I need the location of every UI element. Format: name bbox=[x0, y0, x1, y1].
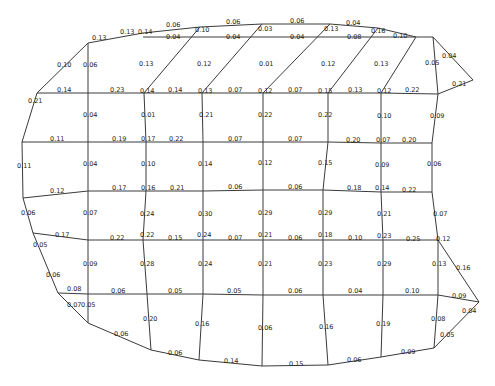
edge-value-label: 0.10 bbox=[141, 160, 155, 168]
edge-value-label: 0.11 bbox=[17, 162, 31, 170]
edge-value-label: 0.16 bbox=[319, 323, 333, 331]
edge-value-label: 0.19 bbox=[376, 320, 390, 328]
mesh-edge bbox=[58, 293, 88, 294]
edge-value-label: 0.07 bbox=[228, 135, 242, 143]
edge-value-label: 0.04 bbox=[166, 33, 180, 41]
edge-value-label: 0.10 bbox=[393, 32, 407, 40]
edge-value-label: 0.22 bbox=[405, 86, 419, 94]
edge-value-label: 0.05 bbox=[81, 301, 95, 309]
edge-value-label: 0.11 bbox=[50, 135, 64, 143]
edge-value-label: 0.07 bbox=[67, 301, 81, 309]
edge-value-label: 0.07 bbox=[376, 136, 390, 144]
edge-value-label: 0.07 bbox=[288, 86, 302, 94]
edge-value-label: 0.13 bbox=[348, 86, 362, 94]
edge-value-label: 0.10 bbox=[57, 61, 71, 69]
edge-value-label: 0.10 bbox=[195, 26, 209, 34]
edge-value-label: 0.12 bbox=[258, 87, 272, 95]
edge-value-label: 0.06 bbox=[288, 287, 302, 295]
edge-value-label: 0.05 bbox=[440, 331, 454, 339]
edge-value-label: 0.15 bbox=[168, 234, 182, 242]
edge-value-label: 0.06 bbox=[83, 61, 97, 69]
edge-value-label: 0.22 bbox=[402, 186, 416, 194]
edge-value-label: 0.06 bbox=[168, 349, 182, 357]
edge-value-label: 0.09 bbox=[375, 161, 389, 169]
edge-value-label: 0.04 bbox=[83, 160, 97, 168]
edge-value-label: 0.24 bbox=[197, 231, 211, 239]
edge-value-label: 0.29 bbox=[258, 209, 272, 217]
edge-value-label: 0.24 bbox=[140, 210, 154, 218]
edge-value-label: 0.14 bbox=[57, 86, 71, 94]
edge-value-label: 0.16 bbox=[195, 320, 209, 328]
edge-value-label: 0.07 bbox=[83, 209, 97, 217]
edge-value-label: 0.13 bbox=[120, 28, 134, 36]
edge-value-label: 0.14 bbox=[138, 28, 152, 36]
edge-value-label: 0.08 bbox=[347, 33, 361, 41]
edge-value-label: 0.06 bbox=[258, 324, 272, 332]
edge-value-label: 0.10 bbox=[348, 234, 362, 242]
edge-value-label: 0.09 bbox=[83, 260, 97, 268]
edge-value-label: 0.18 bbox=[347, 184, 361, 192]
edge-value-label: 0.09 bbox=[430, 112, 444, 120]
edge-value-label: 0.13 bbox=[324, 25, 338, 33]
edge-value-label: 0.14 bbox=[224, 357, 238, 365]
edge-value-label: 0.30 bbox=[198, 210, 212, 218]
edge-value-label: 0.06 bbox=[46, 271, 60, 279]
edge-labels: 0.130.130.140.060.100.060.030.060.130.04… bbox=[17, 17, 476, 368]
mesh-diagram: 0.130.130.140.060.100.060.030.060.130.04… bbox=[0, 0, 495, 386]
edge-value-label: 0.22 bbox=[258, 111, 272, 119]
edge-value-label: 0.22 bbox=[110, 234, 124, 242]
edge-value-label: 0.12 bbox=[258, 159, 272, 167]
edge-value-label: 0.06 bbox=[111, 287, 125, 295]
edge-value-label: 0.23 bbox=[110, 86, 124, 94]
edge-value-label: 0.16 bbox=[456, 264, 470, 272]
edge-value-label: 0.17 bbox=[112, 184, 126, 192]
edge-value-label: 0.10 bbox=[405, 287, 419, 295]
edge-value-label: 0.06 bbox=[347, 356, 361, 364]
edge-value-label: 0.06 bbox=[288, 183, 302, 191]
edge-value-label: 0.05 bbox=[425, 59, 439, 67]
edge-value-label: 0.16 bbox=[371, 27, 385, 35]
edge-value-label: 0.04 bbox=[348, 287, 362, 295]
edge-value-label: 0.08 bbox=[67, 285, 81, 293]
edge-value-label: 0.21 bbox=[258, 231, 272, 239]
edge-value-label: 0.12 bbox=[377, 87, 391, 95]
edge-value-label: 0.14 bbox=[198, 160, 212, 168]
edge-value-label: 0.05 bbox=[168, 287, 182, 295]
edge-value-label: 0.20 bbox=[346, 136, 360, 144]
edge-value-label: 0.12 bbox=[436, 235, 450, 243]
edge-value-label: 0.25 bbox=[406, 235, 420, 243]
edge-value-label: 0.07 bbox=[433, 210, 447, 218]
edge-value-label: 0.06 bbox=[288, 234, 302, 242]
edge-value-label: 0.06 bbox=[228, 183, 242, 191]
edge-value-label: 0.06 bbox=[427, 160, 441, 168]
edge-value-label: 0.14 bbox=[168, 86, 182, 94]
edge-value-label: 0.24 bbox=[198, 260, 212, 268]
edge-value-label: 0.13 bbox=[374, 60, 388, 68]
edge-value-label: 0.01 bbox=[141, 111, 155, 119]
edge-value-label: 0.17 bbox=[141, 135, 155, 143]
edge-value-label: 0.12 bbox=[50, 187, 64, 195]
edge-value-label: 0.15 bbox=[318, 159, 332, 167]
edge-value-label: 0.16 bbox=[141, 184, 155, 192]
edge-value-label: 0.07 bbox=[288, 135, 302, 143]
edge-value-label: 0.12 bbox=[197, 60, 211, 68]
edge-value-label: 0.12 bbox=[321, 60, 335, 68]
edge-value-label: 0.13 bbox=[432, 260, 446, 268]
edge-value-label: 0.14 bbox=[375, 184, 389, 192]
edge-value-label: 0.21 bbox=[258, 260, 272, 268]
edge-value-label: 0.20 bbox=[402, 136, 416, 144]
edge-value-label: 0.17 bbox=[55, 231, 69, 239]
edge-value-label: 0.09 bbox=[401, 348, 415, 356]
edge-value-label: 0.05 bbox=[33, 241, 47, 249]
edge-value-label: 0.08 bbox=[431, 315, 445, 323]
edge-value-label: 0.13 bbox=[198, 87, 212, 95]
edge-value-label: 0.07 bbox=[228, 86, 242, 94]
edge-value-label: 0.15 bbox=[289, 360, 303, 368]
edge-value-label: 0.15 bbox=[318, 87, 332, 95]
edge-value-label: 0.21 bbox=[170, 184, 184, 192]
edge-value-label: 0.21 bbox=[377, 210, 391, 218]
edge-value-label: 0.06 bbox=[166, 21, 180, 29]
edge-value-label: 0.06 bbox=[290, 17, 304, 25]
edge-value-label: 0.03 bbox=[258, 25, 272, 33]
edge-value-label: 0.04 bbox=[442, 52, 456, 60]
